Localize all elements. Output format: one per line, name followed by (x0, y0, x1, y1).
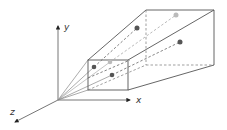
frustum-diagram: y x z (0, 0, 227, 130)
far-dark-point-2 (178, 40, 183, 45)
y-axis-label: y (63, 22, 70, 32)
point-paths (88, 15, 180, 78)
z-axis (15, 100, 58, 122)
near-dark-point-2 (110, 73, 115, 78)
x-axis-label: x (135, 95, 142, 105)
near-light-point (108, 60, 113, 65)
projection-rays (58, 60, 112, 100)
axes: y x z (9, 22, 142, 122)
far-light-point (174, 13, 179, 18)
near-dark-point-1 (92, 65, 97, 70)
z-axis-label: z (9, 107, 15, 117)
far-dark-point-1 (135, 26, 140, 31)
frustum (88, 10, 214, 90)
